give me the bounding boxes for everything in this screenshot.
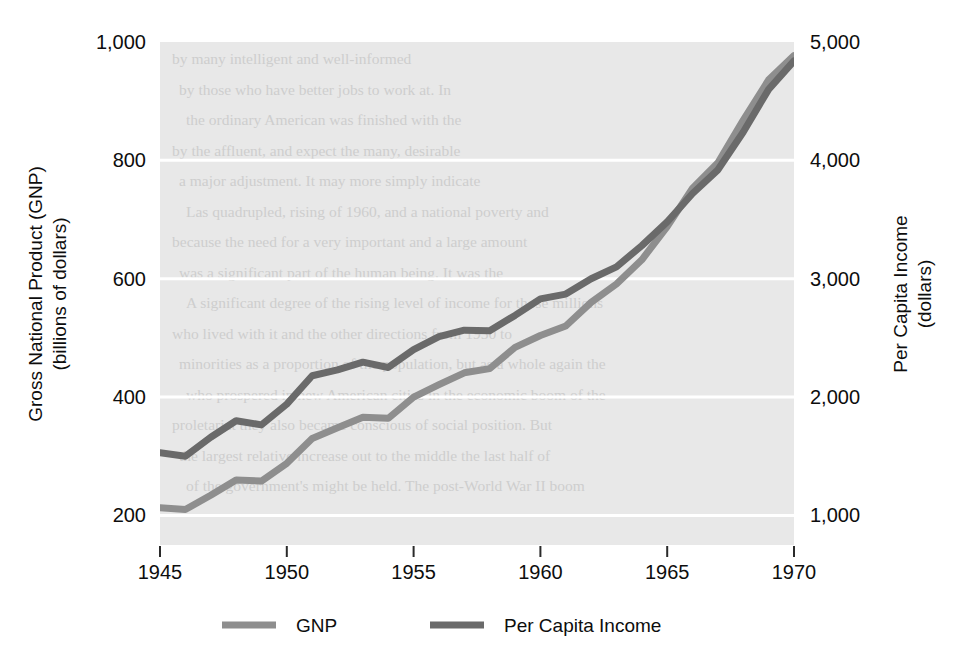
chart-canvas: by many intelligent and well-informedby … xyxy=(0,0,971,665)
ghost-text-line: because the need for a very important an… xyxy=(172,233,528,250)
y-axis-right-tick-label: 4,000 xyxy=(810,149,860,171)
gnp-per-capita-income-chart: by many intelligent and well-informedby … xyxy=(0,0,971,665)
y-axis-right-tick-label: 5,000 xyxy=(810,31,860,53)
x-axis-tick-label: 1960 xyxy=(518,561,563,583)
y-axis-left-title-line2: (billions of dollars) xyxy=(49,217,70,370)
legend-label: Per Capita Income xyxy=(504,615,661,636)
ghost-text-line: by the affluent, and expect the many, de… xyxy=(172,142,460,159)
y-axis-left-tick-label: 600 xyxy=(113,268,146,290)
x-axis-tick-label: 1970 xyxy=(772,561,817,583)
y-axis-right-tick-label: 3,000 xyxy=(810,268,860,290)
legend-label: GNP xyxy=(296,615,337,636)
y-axis-left-tick-label: 200 xyxy=(113,504,146,526)
ghost-text-line: Las quadrupled, rising of 1960, and a na… xyxy=(186,203,549,220)
y-axis-left-tick-label: 1,000 xyxy=(96,31,146,53)
x-axis-tick-label: 1955 xyxy=(391,561,436,583)
y-axis-left-title-line1: Gross National Product (GNP) xyxy=(25,166,46,422)
y-axis-right-tick-label: 2,000 xyxy=(810,386,860,408)
x-axis-tick-label: 1945 xyxy=(138,561,183,583)
x-axis-tick-label: 1950 xyxy=(265,561,310,583)
y-axis-right-tick-label: 1,000 xyxy=(810,504,860,526)
ghost-text-line: by those who have better jobs to work at… xyxy=(179,81,451,98)
ghost-text-line: the ordinary American was finished with … xyxy=(186,111,462,128)
x-axis-tick-label: 1965 xyxy=(645,561,690,583)
y-axis-right-title-line1: Per Capita Income xyxy=(890,215,911,372)
ghost-text-line: a major adjustment. It may more simply i… xyxy=(179,172,480,189)
ghost-text-line: by many intelligent and well-informed xyxy=(172,50,412,67)
ghost-text-line: who prospered in new American cities in … xyxy=(186,386,606,403)
y-axis-left-tick-label: 800 xyxy=(113,149,146,171)
y-axis-right-title-line2: (dollars) xyxy=(914,260,935,329)
y-axis-left-tick-label: 400 xyxy=(113,386,146,408)
ghost-text-line: the largest relative increase out to the… xyxy=(179,447,551,464)
